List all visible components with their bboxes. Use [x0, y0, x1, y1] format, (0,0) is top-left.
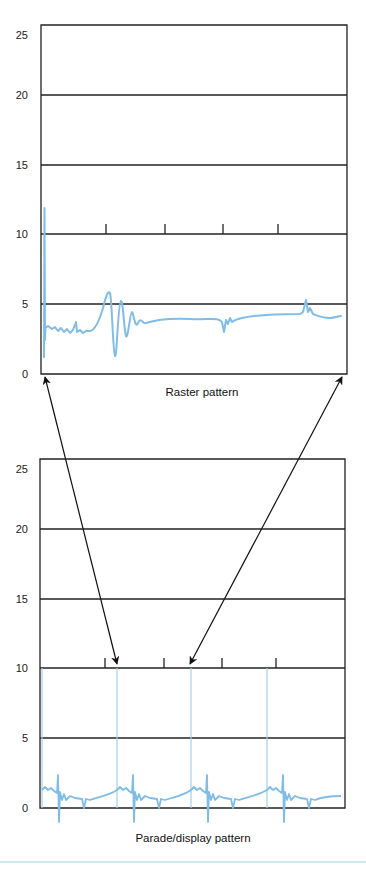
y-tick-15: 15	[16, 159, 28, 171]
waveform-comparison-figure: 25 20 15 10 5 0 Raster pattern	[0, 0, 366, 869]
raster-trace	[44, 208, 341, 357]
y-tick-5: 5	[22, 298, 28, 310]
arrow-left	[45, 377, 117, 664]
y-tick-15: 15	[16, 593, 28, 605]
y-tick-20: 20	[16, 89, 28, 101]
raster-caption: Raster pattern	[166, 386, 239, 398]
y-tick-0: 0	[22, 802, 28, 814]
parade-gridlines	[40, 459, 345, 808]
parade-chart: 25 20 15 10 5 0	[16, 459, 345, 822]
bottom-divider	[0, 861, 366, 863]
y-tick-5: 5	[22, 732, 28, 744]
y-tick-25: 25	[16, 463, 28, 475]
raster-chart: 25 20 15 10 5 0	[16, 25, 347, 380]
parade-caption: Parade/display pattern	[135, 832, 250, 844]
raster-gridlines	[41, 25, 347, 374]
y-tick-10: 10	[16, 662, 28, 674]
y-tick-20: 20	[16, 523, 28, 535]
y-tick-25: 25	[16, 29, 28, 41]
y-tick-0: 0	[22, 368, 28, 380]
arrow-right	[190, 377, 342, 664]
y-tick-10: 10	[16, 228, 28, 240]
